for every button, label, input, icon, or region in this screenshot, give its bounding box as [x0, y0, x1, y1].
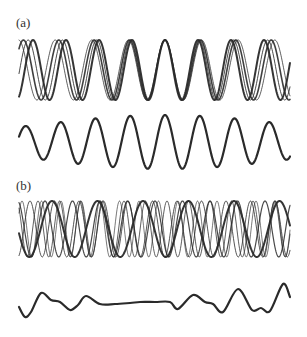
panel-a-component-waves — [19, 40, 290, 100]
component-wave-b-1 — [19, 201, 290, 257]
panel-b-component-waves — [19, 201, 290, 257]
resultant-wave-a — [19, 115, 290, 169]
wave-superposition-figure — [0, 0, 307, 337]
panel-a-resultant-wave — [19, 115, 290, 169]
resultant-wave-b — [19, 284, 290, 317]
panel-b-resultant-wave — [19, 284, 290, 317]
